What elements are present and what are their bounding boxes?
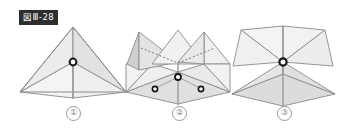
panel-2-shape [126, 30, 230, 105]
panel-upright-left [127, 32, 139, 70]
left-node-icon [152, 86, 157, 91]
center-node-icon-3 [279, 58, 286, 65]
apex-node-icon [70, 59, 77, 66]
center-node-icon [175, 74, 181, 80]
panel-1-center-node [70, 59, 77, 66]
triangle-top-right [204, 32, 230, 64]
panel-number-2: ② [172, 106, 187, 121]
panel-3-center-node [279, 58, 286, 65]
right-node-icon [198, 86, 203, 91]
panel-number-1: ① [66, 106, 81, 121]
figure-root: 図Ⅲ-28 [0, 0, 352, 130]
panel-number-3: ③ [277, 106, 292, 121]
